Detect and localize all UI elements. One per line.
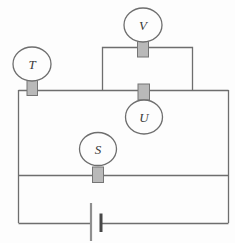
- connector-meter-s: [93, 167, 104, 183]
- meter-s-label: S: [95, 142, 102, 157]
- connector-meter-u: [138, 84, 150, 100]
- circuit-wires: [19, 48, 229, 224]
- connector-meter-t: [27, 80, 38, 96]
- connector-meter-v: [138, 42, 149, 58]
- battery-symbol: [91, 203, 101, 241]
- meter-v: V: [124, 8, 162, 42]
- circuit-diagram: V T U S: [0, 0, 235, 243]
- meter-t-label: T: [28, 57, 36, 72]
- meter-t: T: [13, 47, 51, 81]
- meter-u: U: [126, 100, 163, 134]
- meter-u-label: U: [139, 110, 150, 125]
- meter-s: S: [80, 133, 117, 166]
